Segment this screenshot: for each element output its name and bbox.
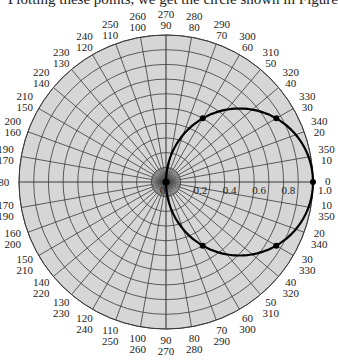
angle-label: 170190 xyxy=(0,199,14,222)
svg-text:350: 350 xyxy=(318,210,335,222)
angle-label: 180 xyxy=(0,176,10,188)
angle-label: 20340 xyxy=(311,227,328,250)
svg-text:290: 290 xyxy=(213,335,230,347)
svg-text:10: 10 xyxy=(321,154,333,166)
svg-text:170: 170 xyxy=(0,154,14,166)
angle-label: 190170 xyxy=(0,143,14,166)
svg-text:220: 220 xyxy=(33,287,50,299)
svg-text:40: 40 xyxy=(285,77,297,89)
data-point xyxy=(200,115,206,121)
svg-text:280: 280 xyxy=(186,343,203,355)
angle-label: 80280 xyxy=(186,332,203,355)
angle-label: 220140 xyxy=(33,66,50,89)
svg-text:100: 100 xyxy=(129,21,146,33)
angle-label: 240120 xyxy=(76,30,93,53)
svg-text:340: 340 xyxy=(311,238,328,250)
angle-label: 110250 xyxy=(102,324,119,347)
angle-label: 33030 xyxy=(299,90,316,113)
svg-text:140: 140 xyxy=(33,77,50,89)
angle-label: 160200 xyxy=(5,227,22,250)
angle-label: 230130 xyxy=(53,46,70,69)
angle-label: 140220 xyxy=(33,276,50,299)
svg-text:70: 70 xyxy=(216,29,228,41)
angle-label: 260100 xyxy=(129,10,146,33)
svg-text:160: 160 xyxy=(5,126,22,138)
radial-label: 0.2 xyxy=(193,184,207,196)
angle-label: 27090 xyxy=(158,8,175,31)
angle-label: 10350 xyxy=(318,199,335,222)
angle-label: 0 xyxy=(325,175,331,187)
svg-text:20: 20 xyxy=(314,126,326,138)
angle-label: 200160 xyxy=(5,115,22,138)
angle-label: 29070 xyxy=(213,18,230,41)
angle-label: 34020 xyxy=(311,115,328,138)
svg-text:320: 320 xyxy=(283,287,300,299)
angle-label: 250110 xyxy=(102,18,119,41)
svg-text:0: 0 xyxy=(325,175,331,187)
svg-text:80: 80 xyxy=(189,21,201,33)
svg-text:60: 60 xyxy=(242,41,254,53)
data-point xyxy=(200,243,206,249)
angle-label: 28080 xyxy=(186,10,203,33)
svg-text:30: 30 xyxy=(302,101,314,113)
angle-label: 35010 xyxy=(318,143,335,166)
angle-label: 50310 xyxy=(263,296,280,319)
svg-text:260: 260 xyxy=(129,343,146,355)
angle-label: 31050 xyxy=(263,46,280,69)
angle-label: 120240 xyxy=(76,312,93,335)
angle-label: 60300 xyxy=(239,312,256,335)
svg-text:50: 50 xyxy=(265,57,277,69)
data-point xyxy=(273,243,279,249)
svg-text:330: 330 xyxy=(299,264,316,276)
radial-label: 0.4 xyxy=(223,184,237,196)
svg-text:230: 230 xyxy=(53,307,70,319)
svg-text:90: 90 xyxy=(161,19,173,31)
data-point xyxy=(310,179,316,185)
svg-text:210: 210 xyxy=(17,264,34,276)
radial-label: 0.6 xyxy=(252,184,266,196)
svg-text:150: 150 xyxy=(17,101,34,113)
svg-text:180: 180 xyxy=(0,176,10,188)
angle-label: 90270 xyxy=(158,334,175,357)
svg-text:130: 130 xyxy=(53,57,70,69)
svg-text:250: 250 xyxy=(102,335,119,347)
radial-label: 0 xyxy=(160,184,166,196)
angle-label: 40320 xyxy=(283,276,300,299)
angle-label: 210150 xyxy=(17,90,34,113)
radial-label: 0.8 xyxy=(282,184,296,196)
angle-label: 32040 xyxy=(283,66,300,89)
angle-label: 30060 xyxy=(239,30,256,53)
svg-text:120: 120 xyxy=(76,41,93,53)
data-point xyxy=(273,115,279,121)
angle-label: 150210 xyxy=(17,253,34,276)
svg-text:270: 270 xyxy=(158,345,175,357)
svg-text:310: 310 xyxy=(263,307,280,319)
angle-label: 100260 xyxy=(129,332,146,355)
svg-text:190: 190 xyxy=(0,210,14,222)
svg-text:240: 240 xyxy=(76,323,93,335)
angle-label: 130230 xyxy=(53,296,70,319)
angle-label: 70290 xyxy=(213,324,230,347)
svg-text:300: 300 xyxy=(239,323,256,335)
svg-text:200: 200 xyxy=(5,238,22,250)
svg-text:110: 110 xyxy=(102,29,119,41)
angle-label: 30330 xyxy=(299,253,316,276)
